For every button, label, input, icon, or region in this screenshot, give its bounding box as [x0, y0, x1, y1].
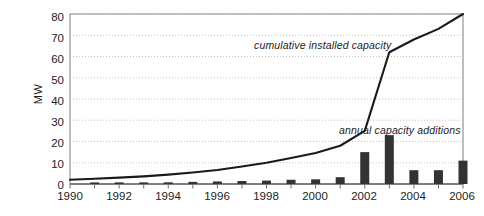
y-tick-60: 60: [38, 54, 64, 65]
x-tick-2002: 2002: [344, 190, 384, 202]
x-tick-1996: 1996: [197, 190, 237, 202]
x-tick-2006: 2006: [442, 190, 482, 202]
gridlines: [70, 14, 463, 163]
x-tick-2004: 2004: [393, 190, 433, 202]
y-tick-10: 10: [38, 159, 64, 170]
y-tick-70: 70: [38, 33, 64, 44]
y-tick-20: 20: [38, 138, 64, 149]
annotation-annual-capacity-additions: annual capacity additions: [339, 124, 461, 136]
x-tick-1994: 1994: [148, 190, 188, 202]
y-tick-80: 80: [38, 12, 64, 23]
y-tick-40: 40: [38, 96, 64, 107]
x-tick-2000: 2000: [295, 190, 335, 202]
plot-area: [0, 0, 484, 216]
capacity-chart: MW 0 10 20 30 40 50 60 70 80 1990 1992 1…: [0, 0, 484, 216]
x-tick-1998: 1998: [246, 190, 286, 202]
annotation-cumulative-installed-capacity: cumulative installed capacity: [254, 39, 391, 51]
y-tick-50: 50: [38, 75, 64, 86]
x-tick-1990: 1990: [50, 190, 90, 202]
y-tick-30: 30: [38, 117, 64, 128]
x-tick-1992: 1992: [99, 190, 139, 202]
